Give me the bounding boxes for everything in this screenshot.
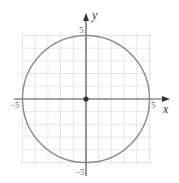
y-tick-neg: −5 xyxy=(75,168,85,177)
x-tick-pos: 5 xyxy=(151,101,156,110)
y-axis-label: y xyxy=(92,9,97,21)
y-axis-arrow-icon xyxy=(83,13,89,21)
x-tick-neg: −5 xyxy=(10,101,20,110)
x-axis-label: x xyxy=(163,103,168,115)
center-point xyxy=(83,96,88,101)
y-tick-pos: 5 xyxy=(79,26,84,35)
coordinate-plot xyxy=(0,0,179,183)
